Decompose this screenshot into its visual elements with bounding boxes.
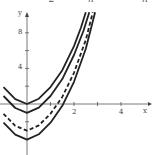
x-tick-label: 2 xyxy=(72,108,76,116)
y-tick-label: 8 xyxy=(18,28,22,36)
x-tick-label: 4 xyxy=(119,108,123,116)
y-tick-label: 4 xyxy=(18,63,22,71)
y-axis-label: y xyxy=(18,9,22,17)
plot-area xyxy=(0,0,154,155)
x-axis-label: x xyxy=(143,107,147,115)
x-axis-arrow-icon xyxy=(148,102,152,106)
y-axis-arrow-icon xyxy=(25,12,29,17)
curve-curve-min-neg1 xyxy=(4,12,90,113)
axes xyxy=(0,12,152,155)
